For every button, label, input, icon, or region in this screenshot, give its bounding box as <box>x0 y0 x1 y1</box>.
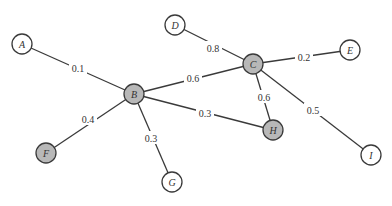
node-label: D <box>170 20 179 31</box>
edge-weight-text: 0.3 <box>199 108 212 119</box>
node-c: C <box>243 54 263 74</box>
edge-weight-label: 0.3 <box>142 131 160 144</box>
node-label: I <box>368 150 373 161</box>
edge-labels-layer: 0.10.60.30.40.30.80.20.60.5 <box>69 41 322 144</box>
node-h: H <box>263 120 283 140</box>
edge-weight-text: 0.8 <box>207 43 220 54</box>
edge-weight-text: 0.4 <box>82 114 95 125</box>
edge-weight-label: 0.4 <box>79 112 97 125</box>
node-label: C <box>250 59 257 70</box>
node-label: H <box>268 125 277 136</box>
edge-weight-label: 0.6 <box>184 71 202 84</box>
node-label: G <box>168 177 175 188</box>
node-b: B <box>124 84 144 104</box>
edge-weight-label: 0.1 <box>69 61 87 74</box>
edge-weight-label: 0.2 <box>295 50 313 63</box>
edge-weight-label: 0.3 <box>196 106 214 119</box>
node-i: I <box>361 145 381 165</box>
node-label: E <box>346 45 353 56</box>
nodes-layer: ABCDEFGHI <box>12 15 381 192</box>
node-label: A <box>18 39 26 50</box>
edge-weight-text: 0.1 <box>72 63 85 74</box>
node-a: A <box>12 34 32 54</box>
graph-diagram: 0.10.60.30.40.30.80.20.60.5 ABCDEFGHI <box>0 0 392 206</box>
graph-svg: 0.10.60.30.40.30.80.20.60.5 ABCDEFGHI <box>0 0 392 206</box>
edge-weight-label: 0.5 <box>304 103 322 116</box>
edge-weight-text: 0.2 <box>298 52 311 63</box>
node-label: F <box>42 148 50 159</box>
node-f: F <box>36 143 56 163</box>
edge-weight-label: 0.6 <box>255 90 273 103</box>
node-e: E <box>340 40 360 60</box>
node-g: G <box>162 172 182 192</box>
edge-weight-label: 0.8 <box>204 41 222 54</box>
edge-weight-text: 0.5 <box>307 105 320 116</box>
edge-weight-text: 0.3 <box>145 133 158 144</box>
node-label: B <box>131 89 137 100</box>
edge-weight-text: 0.6 <box>187 73 200 84</box>
node-d: D <box>165 15 185 35</box>
edge-weight-text: 0.6 <box>258 92 271 103</box>
